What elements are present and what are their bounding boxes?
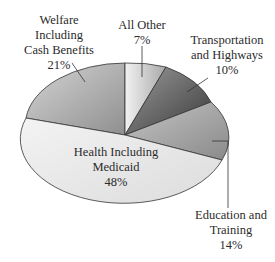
label-health-line2: Medicaid [62,160,170,175]
label-welfare-line2: Including [18,28,100,43]
pie-chart: Welfare Including Cash Benefits 21% All … [0,0,275,262]
label-all-other-pct: 7% [112,33,172,48]
label-health-pct: 48% [62,175,170,190]
label-welfare-line3: Cash Benefits [18,43,100,58]
label-transport-line1: Transportation [180,33,274,48]
label-education: Education and Training 14% [188,208,274,253]
label-all-other-line1: All Other [112,18,172,33]
label-education-line2: Training [188,223,274,238]
label-welfare-line1: Welfare [18,13,100,28]
label-transport-pct: 10% [180,63,274,78]
label-health-line1: Health Including [62,145,170,160]
label-welfare-pct: 21% [18,58,100,73]
label-transport: Transportation and Highways 10% [180,33,274,78]
label-health: Health Including Medicaid 48% [62,145,170,190]
label-education-line1: Education and [188,208,274,223]
label-all-other: All Other 7% [112,18,172,48]
label-education-pct: 14% [188,238,274,253]
label-welfare: Welfare Including Cash Benefits 21% [18,13,100,73]
label-transport-line2: and Highways [180,48,274,63]
